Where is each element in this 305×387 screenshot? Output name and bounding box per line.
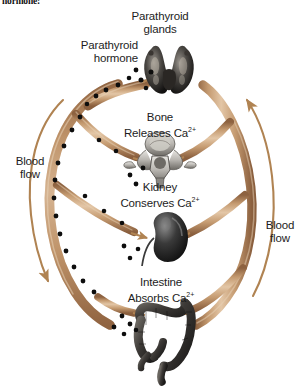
label-blood-flow-right: Blood flow: [258, 219, 302, 244]
label-blood-flow-left-line1: Blood: [16, 155, 45, 167]
label-intestine-superscript: 2+: [186, 291, 194, 298]
label-parathyroid-glands: Parathyroid glands: [118, 10, 202, 35]
label-blood-flow-left: Blood flow: [8, 155, 52, 180]
label-intestine-line1: Intestine: [140, 276, 182, 288]
label-kidney-line2: Conserves Ca: [120, 196, 191, 208]
label-kidney-line1: Kidney: [143, 181, 177, 193]
label-bone-releases-ca: Bone Releases Ca2+: [117, 111, 203, 139]
label-parathyroid-glands-line2: glands: [144, 23, 177, 35]
label-parathyroid-hormone: Parathyroid hormone: [46, 39, 138, 64]
label-intestine-line2: Absorbs Ca: [128, 291, 187, 303]
label-blood-flow-right-line1: Blood: [266, 219, 295, 231]
label-intestine-absorbs-ca: Intestine Absorbs Ca2+: [113, 276, 209, 304]
kidney-organ: [142, 212, 188, 266]
label-parathyroid-glands-line1: Parathyroid: [131, 10, 188, 22]
label-blood-flow-left-line2: flow: [20, 168, 40, 180]
label-bone-line2: Releases Ca: [124, 126, 188, 138]
label-bone-line1: Bone: [147, 111, 173, 123]
label-parathyroid-hormone-line2: hormone: [94, 52, 138, 64]
label-blood-flow-right-line2: flow: [270, 232, 290, 244]
diagram-canvas: hormone:: [0, 0, 305, 387]
label-kidney-conserves-ca: Kidney Conserves Ca2+: [112, 181, 208, 209]
label-parathyroid-hormone-line1: Parathyroid: [81, 39, 138, 51]
label-bone-superscript: 2+: [188, 126, 196, 133]
label-kidney-superscript: 2+: [192, 196, 200, 203]
